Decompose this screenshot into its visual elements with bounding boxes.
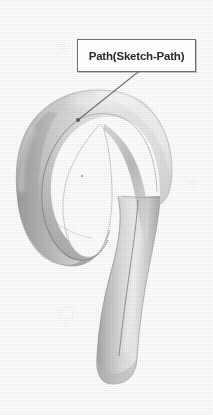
origin-point-marker xyxy=(81,175,83,177)
callout-label-box[interactable]: Path(Sketch-Path) xyxy=(77,39,196,72)
callout-label-text: Path(Sketch-Path) xyxy=(89,50,185,62)
cad-viewport[interactable]: Path(Sketch-Path) xyxy=(0,0,213,415)
